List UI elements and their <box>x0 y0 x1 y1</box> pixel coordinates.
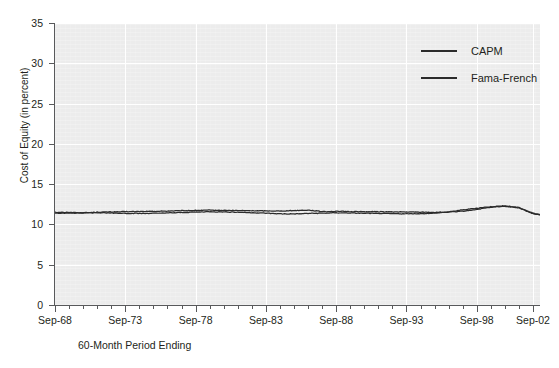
legend-swatch-fama-french <box>421 77 457 79</box>
x-tick-1968 <box>55 306 56 312</box>
x-minor-tick-1989 <box>350 306 351 309</box>
x-ticklabel-1973: Sep-73 <box>108 314 142 326</box>
y-ticklabel-35: 35 <box>17 18 43 28</box>
x-axis-title: 60-Month Period Ending <box>78 339 191 351</box>
y-axis-title-holder: Cost of Equity (in percent) <box>10 0 24 330</box>
legend: CAPM Fama-French <box>421 37 540 91</box>
x-minor-tick-1970 <box>83 306 84 309</box>
y-ticklabel-20: 20 <box>17 139 43 149</box>
x-tick-1993 <box>406 306 407 312</box>
y-ticklabel-10: 10 <box>17 219 43 229</box>
x-minor-tick-1984 <box>280 306 281 309</box>
x-minor-tick-1997 <box>463 306 464 309</box>
x-minor-tick-1999 <box>491 306 492 309</box>
x-ticklabel-1978: Sep-78 <box>179 314 213 326</box>
x-minor-tick-2001 <box>519 306 520 309</box>
x-tick-1978 <box>196 306 197 312</box>
y-axis-title: Cost of Equity (in percent) <box>19 26 30 226</box>
x-ticklabel-1998: Sep-98 <box>460 314 494 326</box>
x-minor-tick-1980 <box>224 306 225 309</box>
x-minor-tick-1979 <box>210 306 211 309</box>
x-ticklabel-2002: Sep-02 <box>516 314 550 326</box>
x-tick-1988 <box>336 306 337 312</box>
x-minor-tick-1977 <box>182 306 183 309</box>
x-minor-tick-2000 <box>505 306 506 309</box>
y-ticklabel-0: 0 <box>17 300 43 310</box>
x-minor-tick-1982 <box>252 306 253 309</box>
x-ticklabel-1968: Sep-68 <box>38 314 72 326</box>
line-chart: Cost of Equity (in percent) 051015202530… <box>0 0 559 368</box>
x-minor-tick-1987 <box>322 306 323 309</box>
x-minor-tick-1972 <box>111 306 112 309</box>
x-minor-tick-1991 <box>378 306 379 309</box>
y-ticklabel-30: 30 <box>17 58 43 68</box>
legend-item-fama-french: Fama-French <box>421 64 540 91</box>
x-minor-tick-1990 <box>364 306 365 309</box>
y-ticklabel-15: 15 <box>17 179 43 189</box>
x-minor-tick-1985 <box>294 306 295 309</box>
plot-area: CAPM Fama-French <box>55 23 540 305</box>
x-minor-tick-1996 <box>449 306 450 309</box>
legend-swatch-capm <box>421 50 457 52</box>
x-minor-tick-1976 <box>167 306 168 309</box>
legend-label-capm: CAPM <box>471 45 503 57</box>
x-tick-1998 <box>477 306 478 312</box>
x-tick-1973 <box>125 306 126 312</box>
x-minor-tick-1974 <box>139 306 140 309</box>
x-minor-tick-1975 <box>153 306 154 309</box>
x-minor-tick-1971 <box>97 306 98 309</box>
x-ticklabel-1983: Sep-83 <box>249 314 283 326</box>
legend-item-capm: CAPM <box>421 37 540 64</box>
x-minor-tick-1969 <box>69 306 70 309</box>
x-tick-2002 <box>533 306 534 312</box>
x-ticklabel-1988: Sep-88 <box>319 314 353 326</box>
x-ticklabel-1993: Sep-93 <box>390 314 424 326</box>
x-minor-tick-1995 <box>435 306 436 309</box>
x-minor-tick-1992 <box>392 306 393 309</box>
legend-label-fama-french: Fama-French <box>471 72 537 84</box>
y-ticklabel-5: 5 <box>17 260 43 270</box>
x-tick-1983 <box>266 306 267 312</box>
x-minor-tick-1986 <box>308 306 309 309</box>
y-ticklabel-25: 25 <box>17 99 43 109</box>
x-axis-line <box>54 305 540 306</box>
x-minor-tick-1981 <box>238 306 239 309</box>
y-axis-line <box>54 23 55 306</box>
x-minor-tick-1994 <box>421 306 422 309</box>
